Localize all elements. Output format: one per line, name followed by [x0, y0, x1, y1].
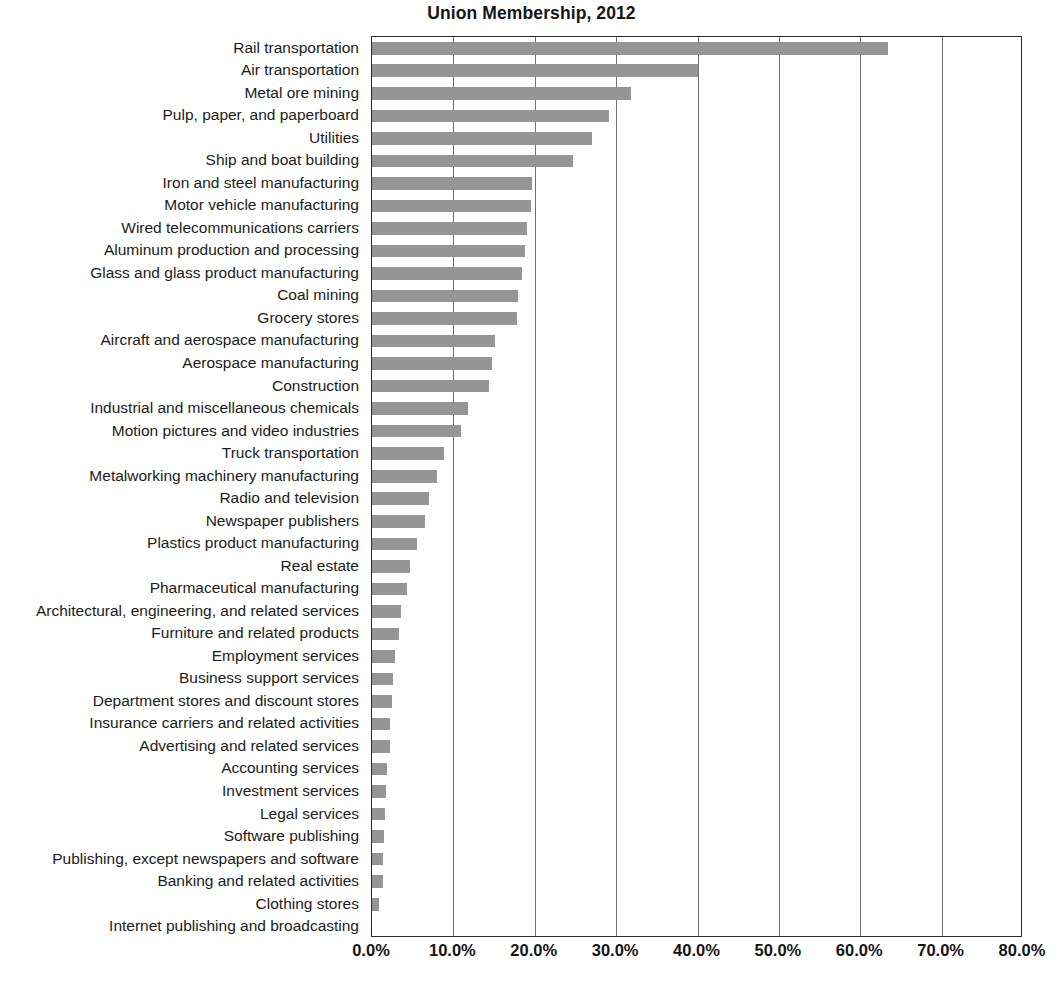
bar-row — [372, 42, 1021, 55]
y-tick-label: Department stores and discount stores — [93, 693, 359, 709]
y-tick-label: Architectural, engineering, and related … — [36, 603, 359, 619]
bar-row — [372, 380, 1021, 393]
bar-row — [372, 267, 1021, 280]
bar — [372, 425, 461, 438]
bar-row — [372, 560, 1021, 573]
bar-row — [372, 177, 1021, 190]
y-tick-label: Air transportation — [241, 62, 359, 78]
x-tick-label: 40.0% — [673, 941, 720, 960]
y-tick-label: Coal mining — [277, 287, 359, 303]
x-tick-label: 60.0% — [836, 941, 883, 960]
bar-row — [372, 222, 1021, 235]
y-tick-label: Truck transportation — [222, 445, 359, 461]
bar-row — [372, 132, 1021, 145]
bar-row — [372, 290, 1021, 303]
chart-title: Union Membership, 2012 — [0, 3, 1063, 24]
bar-row — [372, 650, 1021, 663]
bar-row — [372, 740, 1021, 753]
y-tick-label: Advertising and related services — [139, 738, 359, 754]
bar-row — [372, 785, 1021, 798]
bar-row — [372, 515, 1021, 528]
x-tick-label: 50.0% — [754, 941, 801, 960]
y-tick-label: Real estate — [281, 558, 359, 574]
bar-row — [372, 830, 1021, 843]
bar-row — [372, 402, 1021, 415]
bar-row — [372, 470, 1021, 483]
y-tick-label: Accounting services — [221, 760, 359, 776]
bar-row — [372, 110, 1021, 123]
bar — [372, 470, 437, 483]
bar-row — [372, 447, 1021, 460]
bar — [372, 673, 393, 686]
y-tick-label: Internet publishing and broadcasting — [109, 918, 359, 934]
y-tick-label: Business support services — [179, 670, 359, 686]
bar — [372, 245, 525, 258]
y-tick-label: Legal services — [260, 806, 359, 822]
y-tick-label: Metal ore mining — [244, 85, 359, 101]
bar — [372, 132, 592, 145]
bar — [372, 447, 444, 460]
bar-row — [372, 64, 1021, 77]
y-tick-label: Insurance carriers and related activitie… — [89, 715, 359, 731]
y-tick-label: Pharmaceutical manufacturing — [150, 580, 359, 596]
bar — [372, 538, 417, 551]
bar — [372, 898, 379, 911]
bar-row — [372, 245, 1021, 258]
bar-row — [372, 920, 1021, 933]
x-tick-label: 70.0% — [917, 941, 964, 960]
bars-layer — [372, 37, 1021, 936]
bar-row — [372, 538, 1021, 551]
y-tick-label: Clothing stores — [256, 896, 359, 912]
bar — [372, 402, 468, 415]
y-tick-label: Aerospace manufacturing — [182, 355, 359, 371]
y-tick-label: Radio and television — [219, 490, 359, 506]
bar — [372, 42, 888, 55]
y-tick-label: Ship and boat building — [206, 152, 359, 168]
bar — [372, 583, 407, 596]
bar-row — [372, 357, 1021, 370]
y-tick-label: Utilities — [309, 130, 359, 146]
bar — [372, 64, 698, 77]
y-tick-label: Industrial and miscellaneous chemicals — [90, 400, 359, 416]
bar-row — [372, 425, 1021, 438]
bar-row — [372, 808, 1021, 821]
y-tick-label: Motor vehicle manufacturing — [164, 197, 359, 213]
bar-row — [372, 763, 1021, 776]
y-tick-label: Plastics product manufacturing — [147, 535, 359, 551]
bar — [372, 380, 489, 393]
bar-row — [372, 898, 1021, 911]
bar — [372, 357, 492, 370]
y-tick-label: Rail transportation — [233, 40, 359, 56]
bar — [372, 492, 429, 505]
y-tick-label: Aluminum production and processing — [104, 242, 359, 258]
y-tick-label: Employment services — [212, 648, 359, 664]
bar — [372, 763, 387, 776]
bar-row — [372, 335, 1021, 348]
y-tick-label: Publishing, except newspapers and softwa… — [52, 851, 359, 867]
bar — [372, 740, 390, 753]
y-tick-label: Metalworking machinery manufacturing — [89, 468, 359, 484]
x-tick-label: 0.0% — [352, 941, 390, 960]
bar-row — [372, 200, 1021, 213]
bar-row — [372, 853, 1021, 866]
bar — [372, 290, 518, 303]
bar-row — [372, 583, 1021, 596]
y-tick-label: Furniture and related products — [151, 625, 359, 641]
y-tick-label: Newspaper publishers — [206, 513, 359, 529]
bar — [372, 808, 385, 821]
y-tick-label: Investment services — [222, 783, 359, 799]
bar — [372, 110, 609, 123]
bar-row — [372, 605, 1021, 618]
bar — [372, 155, 573, 168]
bar-row — [372, 628, 1021, 641]
bar — [372, 628, 399, 641]
bar — [372, 335, 495, 348]
x-tick-label: 80.0% — [999, 941, 1046, 960]
y-tick-label: Wired telecommunications carriers — [121, 220, 359, 236]
union-membership-bar-chart: Union Membership, 2012 Rail transportati… — [0, 0, 1063, 985]
bar — [372, 267, 522, 280]
y-tick-label: Motion pictures and video industries — [112, 423, 359, 439]
bar-row — [372, 875, 1021, 888]
y-tick-label: Aircraft and aerospace manufacturing — [101, 332, 359, 348]
bar — [372, 785, 386, 798]
